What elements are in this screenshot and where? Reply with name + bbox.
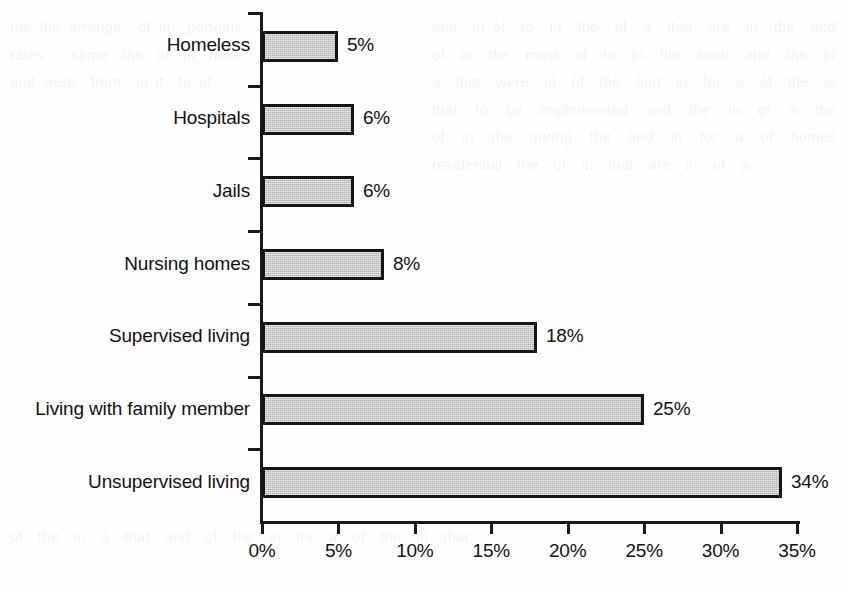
bar [262, 249, 384, 280]
bar-value-label: 6% [363, 107, 390, 129]
y-axis-tick [248, 157, 261, 160]
bar [262, 176, 354, 207]
x-axis-tick-label: 15% [456, 540, 526, 562]
y-axis-tick [248, 303, 261, 306]
bar [262, 104, 354, 135]
x-axis-tick-label: 30% [686, 540, 756, 562]
chart-page: the the arrange of in pertains rates som… [0, 0, 848, 592]
bar [262, 467, 782, 498]
y-axis-tick [248, 12, 261, 15]
horizontal-bar-chart: 0%5%10%15%20%25%30%35%Homeless5%Hospital… [0, 0, 848, 592]
x-axis-tick-label: 25% [609, 540, 679, 562]
bar [262, 394, 644, 425]
bar-category-label: Nursing homes [124, 253, 250, 275]
bar-category-label: Homeless [167, 34, 250, 56]
y-axis-tick [248, 230, 261, 233]
bar-value-label: 5% [347, 34, 374, 56]
y-axis-tick [248, 376, 261, 379]
x-axis-tick-label: 5% [303, 540, 373, 562]
bar-value-label: 34% [791, 471, 828, 493]
bar-value-label: 18% [546, 325, 583, 347]
x-axis-tick [720, 521, 723, 534]
bar-category-label: Unsupervised living [88, 471, 250, 493]
bar-value-label: 6% [363, 180, 390, 202]
x-axis-tick [796, 521, 799, 534]
x-axis-tick-label: 0% [227, 540, 297, 562]
bar-category-label: Supervised living [109, 325, 250, 347]
x-axis-tick-label: 10% [380, 540, 450, 562]
x-axis-tick [337, 521, 340, 534]
bar-value-label: 25% [653, 398, 690, 420]
x-axis-tick-label: 35% [762, 540, 832, 562]
bar-category-label: Jails [213, 180, 250, 202]
bar-category-label: Hospitals [173, 107, 250, 129]
bar-value-label: 8% [393, 253, 420, 275]
x-axis-tick-label: 20% [533, 540, 603, 562]
y-axis-tick [248, 85, 261, 88]
y-axis-tick [248, 448, 261, 451]
bar [262, 322, 537, 353]
x-axis-tick [261, 521, 264, 534]
x-axis-tick [643, 521, 646, 534]
x-axis-tick [567, 521, 570, 534]
bar-category-label: Living with family member [35, 398, 250, 420]
x-axis-tick [414, 521, 417, 534]
x-axis-tick [490, 521, 493, 534]
bar [262, 31, 338, 62]
